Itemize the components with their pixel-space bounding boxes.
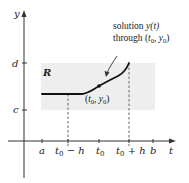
point-label: (t0, y0) [85,94,109,105]
tick-label-c: c [13,104,19,115]
annotation-line-2: through (t0, y0) [113,33,169,44]
t-axis-arrow-icon [169,139,176,144]
point-t0-y0 [97,84,101,88]
y-axis-label: y [13,8,20,19]
tick-label-t0-minus-h: t0 − h [55,145,85,158]
tick-label-t0: t0 [96,145,105,158]
t-axis [8,139,176,144]
region-label: R [42,67,51,78]
y-axis-arrow-icon [22,10,27,17]
tick-label-t0-plus-h: t0 + h [116,145,146,158]
annotation-line-1: solution y(t) [113,21,159,32]
t-axis-label: t [169,145,174,156]
tick-label-a: a [39,145,45,156]
tick-label-b: b [150,145,156,156]
diagram-canvas: y t d c a t0 − h t0 t0 + h b R (t0, y0) … [0,0,189,183]
y-axis [22,10,27,178]
tick-label-d: d [12,58,18,69]
